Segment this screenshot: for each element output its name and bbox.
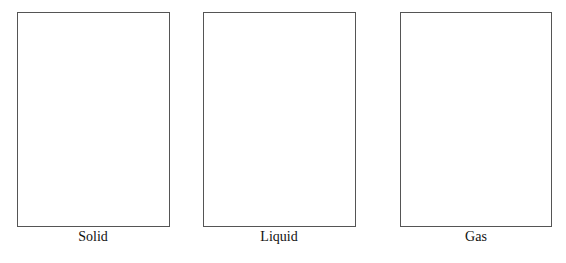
solid-panel-box (17, 12, 170, 227)
liquid-panel-box (203, 12, 356, 227)
liquid-panel-label: Liquid (203, 229, 355, 245)
solid-panel-label: Solid (17, 229, 169, 245)
gas-panel-box (400, 12, 552, 227)
gas-panel-label: Gas (400, 229, 552, 245)
